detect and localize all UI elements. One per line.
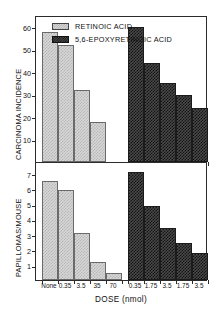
y-axis-tick-label: 1	[27, 264, 31, 271]
y-axis-tick: 40	[32, 73, 36, 74]
legend-item-retinoic-acid: RETINOIC ACID	[52, 20, 172, 33]
legend: RETINOIC ACID 5,6-EPOXYRETINOIC ACID	[52, 20, 172, 46]
x-axis-title: DOSE (nmol)	[35, 295, 207, 304]
y-axis-tick-label: 2	[27, 248, 31, 255]
y-axis-tick-label: 7	[27, 172, 31, 179]
legend-swatch-light-icon	[52, 23, 69, 30]
bar	[74, 233, 90, 280]
y-axis-tick: 60	[32, 28, 36, 29]
bar	[128, 172, 144, 280]
y-axis-tick: 2	[32, 251, 36, 252]
bar	[74, 90, 90, 162]
x-axis-tick-label: 35	[93, 283, 100, 289]
y-axis-tick: 10	[32, 141, 36, 142]
bar	[58, 45, 74, 162]
y-axis-tick: 1	[32, 267, 36, 268]
bar	[42, 181, 58, 280]
y-axis-tick-label: 5	[27, 203, 31, 210]
bar	[128, 27, 144, 162]
bar	[192, 253, 208, 280]
x-axis-tick	[208, 162, 209, 166]
y-axis-tick: 5	[32, 206, 36, 207]
y-axis-tick: 7	[32, 175, 36, 176]
bar	[58, 190, 74, 280]
x-axis-tick	[208, 280, 209, 284]
x-axis-tick-label: None	[41, 283, 56, 289]
figure-root: CARCINOMA INCIDENCE PAPILLOMAS/MOUSE 102…	[0, 0, 217, 314]
x-axis-tick	[106, 280, 107, 284]
bar	[176, 243, 192, 280]
y-axis-tick-label: 4	[27, 218, 31, 225]
y-axis-title-top: CARCINOMA INCIDENCE	[14, 69, 23, 160]
bar	[160, 83, 176, 162]
bar	[42, 32, 58, 162]
bar	[192, 108, 208, 162]
x-axis-tick	[160, 280, 161, 284]
bar	[160, 228, 176, 280]
y-axis-tick-label: 6	[27, 187, 31, 194]
y-axis-title-bottom: PAPILLOMAS/MOUSE	[14, 198, 23, 277]
y-axis-tick-label: 20	[23, 115, 31, 122]
x-axis-tick-label: 1.75	[145, 283, 157, 289]
legend-item-epoxyretinoic-acid: 5,6-EPOXYRETINOIC ACID	[52, 33, 172, 46]
y-axis-tick-label: 30	[23, 93, 31, 100]
x-axis-tick	[192, 280, 193, 284]
legend-label: 5,6-EPOXYRETINOIC ACID	[75, 35, 172, 44]
legend-swatch-dark-icon	[52, 36, 69, 43]
bar	[144, 206, 160, 280]
y-axis-tick-label: 50	[23, 48, 31, 55]
x-axis-tick	[74, 280, 75, 284]
bar	[144, 63, 160, 162]
bar	[106, 273, 122, 280]
y-axis-tick-label: 40	[23, 70, 31, 77]
x-axis-tick-label: 0.35	[59, 283, 71, 289]
legend-label: RETINOIC ACID	[75, 22, 132, 31]
y-axis-tick: 3	[32, 236, 36, 237]
y-axis-tick: 30	[32, 96, 36, 97]
y-axis-tick: 20	[32, 118, 36, 119]
y-axis-tick-label: 60	[23, 25, 31, 32]
x-axis-tick-label: 1.75	[177, 283, 189, 289]
y-axis-tick-label: 10	[23, 137, 31, 144]
x-axis-tick-label: 0.35	[129, 283, 141, 289]
bar	[90, 122, 106, 162]
y-axis-tick: 50	[32, 51, 36, 52]
y-axis-tick-label: 3	[27, 233, 31, 240]
x-axis-tick-label: 70	[109, 283, 116, 289]
bar	[176, 95, 192, 162]
x-axis-tick-label: 3.5	[77, 283, 86, 289]
y-axis-tick: 6	[32, 190, 36, 191]
x-axis-tick-label: 3.5	[195, 283, 204, 289]
panel-papillomas-per-mouse: 1234567	[35, 162, 207, 281]
y-axis-tick: 4	[32, 221, 36, 222]
bar	[90, 262, 106, 280]
x-axis-tick	[122, 280, 123, 284]
x-axis-tick-label: 3.5	[163, 283, 172, 289]
x-axis-tick	[90, 280, 91, 284]
